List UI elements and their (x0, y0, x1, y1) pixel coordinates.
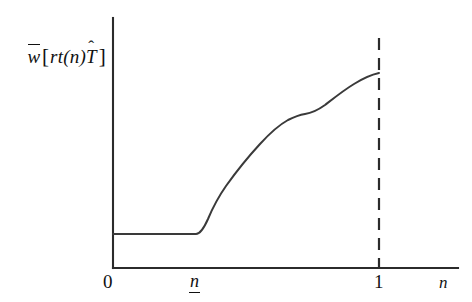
y-axis-label: w[rt(n)T] (27, 46, 107, 67)
y-label-T-hat: T (86, 47, 98, 66)
y-label-bracket-open: [ (41, 44, 50, 68)
x-tick-label-zero: 0 (103, 272, 113, 291)
y-label-bracket-close: ] (98, 44, 107, 68)
y-label-rt: rt (50, 46, 63, 67)
x-tick-label-n-underbar: n (189, 272, 200, 290)
curve-w-bar-rt (113, 73, 379, 234)
x-axis-variable-label: n (439, 274, 448, 291)
n-underbar-glyph: n (189, 272, 200, 290)
y-label-w-overbar: w (27, 47, 41, 66)
x-tick-label-one: 1 (374, 272, 384, 291)
y-label-n: n (70, 46, 80, 67)
figure-container: w[rt(n)T] 0 n 1 n (0, 0, 472, 302)
